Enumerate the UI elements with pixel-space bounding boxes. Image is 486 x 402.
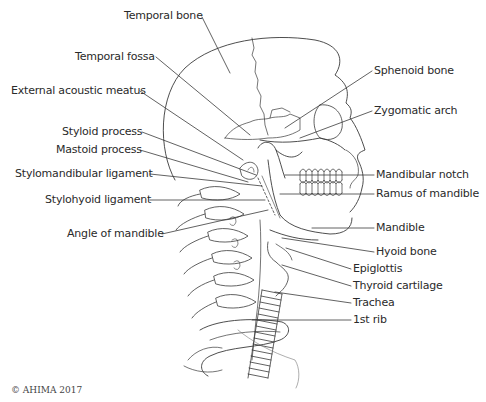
- leader-stylomandibular-ligament: [150, 174, 262, 186]
- leader-styloid-process: [142, 132, 256, 175]
- leader-temporal-fossa: [156, 57, 250, 135]
- label-sphenoid-bone: Sphenoid bone: [374, 64, 454, 77]
- anatomy-diagram: Temporal bone Temporal fossa External ac…: [0, 0, 486, 402]
- label-trachea: Trachea: [353, 296, 395, 309]
- label-mandible: Mandible: [376, 221, 424, 234]
- label-zygomatic-arch: Zygomatic arch: [374, 104, 457, 117]
- label-ramus-of-mandible: Ramus of mandible: [376, 187, 479, 200]
- label-styloid-process: Styloid process: [62, 125, 142, 138]
- label-hyoid-bone: Hyoid bone: [376, 245, 437, 258]
- leader-external-acoustic-meatus: [140, 91, 243, 160]
- label-angle-of-mandible: Angle of mandible: [67, 227, 164, 240]
- leader-zygomatic-arch: [300, 111, 372, 138]
- label-stylohyoid-ligament: Stylohyoid ligament: [45, 193, 151, 206]
- label-thyroid-cartilage: Thyroid cartilage: [353, 279, 443, 292]
- leader-trachea: [275, 292, 351, 303]
- leader-thyroid-cartilage: [282, 265, 351, 286]
- label-temporal-bone: Temporal bone: [124, 9, 203, 22]
- leader-hyoid-bone: [282, 238, 374, 252]
- label-external-acoustic-meatus: External acoustic meatus: [11, 84, 146, 97]
- label-1st-rib: 1st rib: [353, 313, 387, 326]
- leader-sphenoid-bone: [285, 71, 372, 128]
- leader-angle-of-mandible: [162, 210, 268, 234]
- label-temporal-fossa: Temporal fossa: [75, 50, 155, 63]
- label-epiglottis: Epiglottis: [353, 262, 402, 275]
- copyright-notice: © AHIMA 2017: [11, 385, 82, 395]
- label-mastoid-process: Mastoid process: [56, 143, 142, 156]
- leader-epiglottis: [286, 248, 351, 269]
- label-stylomandibular-ligament: Stylomandibular ligament: [15, 167, 153, 180]
- label-mandibular-notch: Mandibular notch: [376, 168, 469, 181]
